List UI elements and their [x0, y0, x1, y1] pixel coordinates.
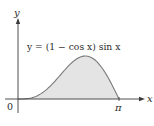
x-axis-label: x — [147, 93, 153, 104]
chart-canvas: y x 0 π y = (1 − cos x) sin x — [0, 0, 154, 126]
shaded-area — [18, 56, 119, 99]
x-axis-arrow-icon — [139, 97, 145, 101]
y-axis-label: y — [13, 7, 20, 18]
origin-label: 0 — [7, 101, 13, 112]
pi-tick-label: π — [114, 102, 122, 113]
y-axis-arrow-icon — [16, 18, 20, 24]
equation-label: y = (1 − cos x) sin x — [26, 41, 121, 52]
